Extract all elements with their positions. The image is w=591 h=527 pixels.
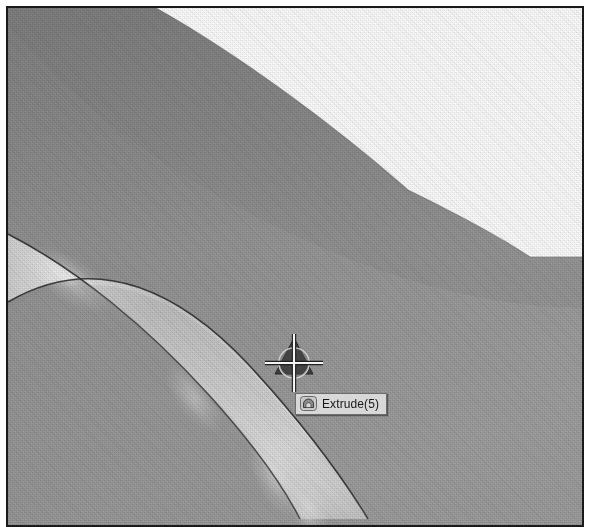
extrude-feature-icon: [300, 396, 317, 411]
graphics-area[interactable]: Extrude(5): [8, 8, 582, 525]
model-geometry[interactable]: [8, 8, 582, 525]
scan-page: Extrude(5): [0, 0, 591, 527]
feature-tooltip: Extrude(5): [295, 393, 387, 415]
cad-viewport-frame: Extrude(5): [6, 6, 584, 527]
feature-tooltip-label: Extrude(5): [322, 397, 379, 411]
